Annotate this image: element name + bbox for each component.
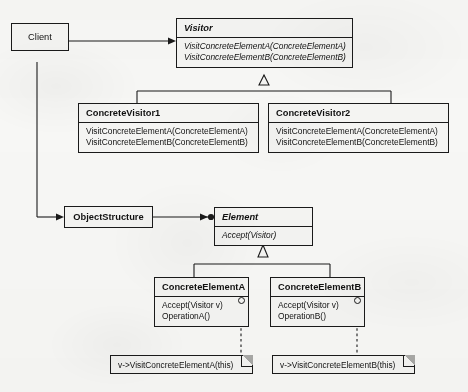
class-box-concreteelementb[interactable]: ConcreteElementB Accept(Visitor v) Opera… <box>270 277 365 327</box>
visitor-operations: VisitConcreteElementA(ConcreteElementA) … <box>177 38 352 67</box>
concreteelementb-operation-0: Accept(Visitor v) <box>278 300 357 311</box>
concretevisitor2-title: ConcreteVisitor2 <box>269 104 448 122</box>
concreteelementa-title: ConcreteElementA <box>155 278 248 296</box>
class-box-visitor[interactable]: Visitor VisitConcreteElementA(ConcreteEl… <box>176 18 353 68</box>
element-operation-0: Accept(Visitor) <box>222 230 305 241</box>
concreteelementa-operation-0: Accept(Visitor v) <box>162 300 241 311</box>
concretevisitor2-operation-1: VisitConcreteElementB(ConcreteElementB) <box>276 137 441 148</box>
concretevisitor1-operation-0: VisitConcreteElementA(ConcreteElementA) <box>86 126 251 137</box>
note-b-text: v->VisitConcreteElementB(this) <box>280 360 395 370</box>
note-fold-corner-icon <box>241 355 253 367</box>
client-label: Client <box>28 32 52 42</box>
concreteelementb-title: ConcreteElementB <box>271 278 364 296</box>
concretevisitor2-operations: VisitConcreteElementA(ConcreteElementA) … <box>269 123 448 152</box>
objectstructure-label: ObjectStructure <box>73 212 143 222</box>
element-title: Element <box>215 208 312 226</box>
element-operations: Accept(Visitor) <box>215 227 312 245</box>
class-box-objectstructure[interactable]: ObjectStructure <box>64 206 153 228</box>
class-box-element[interactable]: Element Accept(Visitor) <box>214 207 313 246</box>
note-concreteelementb[interactable]: v->VisitConcreteElementB(this) <box>272 355 415 374</box>
concreteelementa-operations: Accept(Visitor v) OperationA() <box>155 297 248 326</box>
class-box-concretevisitor2[interactable]: ConcreteVisitor2 VisitConcreteElementA(C… <box>268 103 449 153</box>
inheritance-arrow-visitor <box>259 75 269 85</box>
visitor-operation-1: VisitConcreteElementB(ConcreteElementB) <box>184 52 345 63</box>
visitor-title: Visitor <box>177 19 352 37</box>
note-anchor-circle-a <box>238 297 245 304</box>
inheritance-arrow-element <box>258 245 268 257</box>
concretevisitor1-operation-1: VisitConcreteElementB(ConcreteElementB) <box>86 137 251 148</box>
note-anchor-circle-b <box>354 297 361 304</box>
uml-class-diagram: Client Visitor VisitConcreteElementA(Con… <box>0 0 468 392</box>
arrowhead-objectstructure <box>56 214 64 221</box>
note-fold-corner-icon <box>403 355 415 367</box>
concretevisitor2-operation-0: VisitConcreteElementA(ConcreteElementA) <box>276 126 441 137</box>
arrowhead-element <box>200 214 208 221</box>
concreteelementb-operation-1: OperationB() <box>278 311 357 322</box>
concretevisitor1-operations: VisitConcreteElementA(ConcreteElementA) … <box>79 123 258 152</box>
concreteelementa-operation-1: OperationA() <box>162 311 241 322</box>
concreteelementb-operations: Accept(Visitor v) OperationB() <box>271 297 364 326</box>
visitor-operation-0: VisitConcreteElementA(ConcreteElementA) <box>184 41 345 52</box>
note-a-text: v->VisitConcreteElementA(this) <box>118 360 233 370</box>
class-box-concretevisitor1[interactable]: ConcreteVisitor1 VisitConcreteElementA(C… <box>78 103 259 153</box>
class-box-concreteelementa[interactable]: ConcreteElementA Accept(Visitor v) Opera… <box>154 277 249 327</box>
concretevisitor1-title: ConcreteVisitor1 <box>79 104 258 122</box>
class-box-client[interactable]: Client <box>11 23 69 51</box>
arrowhead-visitor <box>168 38 176 45</box>
note-concreteelementa[interactable]: v->VisitConcreteElementA(this) <box>110 355 253 374</box>
